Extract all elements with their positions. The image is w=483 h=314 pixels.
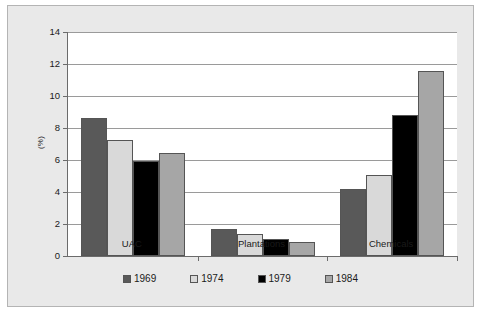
y-tick-2	[63, 224, 68, 225]
legend-item-1979[interactable]: 1979	[258, 274, 291, 284]
legend-item-1969[interactable]: 1969	[123, 274, 156, 284]
legend-label-1969: 1969	[134, 274, 156, 284]
y-tick-label-14: 14	[49, 27, 60, 37]
y-tick-14	[63, 32, 68, 33]
plot-area: 02468101214	[67, 32, 457, 256]
bar-group-uac	[81, 32, 185, 256]
y-tick-4	[63, 192, 68, 193]
legend-item-1974[interactable]: 1974	[190, 274, 223, 284]
legend-label-1979: 1979	[269, 274, 291, 284]
legend-swatch-1974	[190, 275, 198, 283]
y-tick-12	[63, 64, 68, 65]
y-tick-label-6: 6	[55, 155, 60, 165]
x-axis-line	[67, 256, 456, 257]
y-tick-label-4: 4	[55, 187, 60, 197]
bar-group-chemicals	[340, 32, 444, 256]
x-tick-end	[457, 256, 458, 261]
y-tick-8	[63, 128, 68, 129]
legend-item-1984[interactable]: 1984	[325, 274, 358, 284]
chart-figure: (%) 02468101214 UACPlantationsChemicals …	[7, 5, 474, 307]
y-tick-6	[63, 160, 68, 161]
y-tick-label-12: 12	[49, 59, 60, 69]
bar-plantations-1984[interactable]	[289, 242, 315, 256]
legend-label-1974: 1974	[201, 274, 223, 284]
bar-chemicals-1979[interactable]	[392, 115, 418, 256]
y-tick-10	[63, 96, 68, 97]
y-axis-title: (%)	[36, 136, 45, 149]
legend-swatch-1984	[325, 275, 333, 283]
bar-chemicals-1984[interactable]	[418, 71, 444, 256]
chart-legend: 1969197419791984	[8, 274, 473, 284]
bar-group-plantations	[211, 32, 315, 256]
y-tick-label-10: 10	[49, 91, 60, 101]
bar-plantations-1969[interactable]	[211, 229, 237, 256]
x-axis-label-chemicals: Chemicals	[369, 238, 413, 249]
bar-uac-1984[interactable]	[159, 153, 185, 256]
bar-chemicals-1969[interactable]	[340, 189, 366, 256]
legend-swatch-1979	[258, 275, 266, 283]
x-axis-label-uac: UAC	[122, 238, 142, 249]
y-tick-label-2: 2	[55, 219, 60, 229]
legend-label-1984: 1984	[336, 274, 358, 284]
y-tick-label-8: 8	[55, 123, 60, 133]
bar-uac-1969[interactable]	[81, 118, 107, 256]
legend-swatch-1969	[123, 275, 131, 283]
x-axis-label-plantations: Plantations	[238, 238, 285, 249]
y-tick-label-0: 0	[55, 251, 60, 261]
